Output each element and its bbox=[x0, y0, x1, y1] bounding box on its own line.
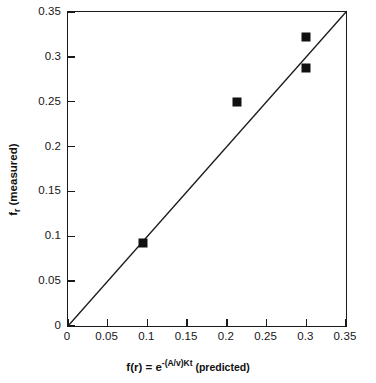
identity-reference-line bbox=[68, 12, 346, 326]
x-tick-mark bbox=[345, 319, 346, 326]
x-axis-title-tail: (predicted) bbox=[193, 361, 250, 373]
y-tick-label: 0.3 bbox=[45, 50, 61, 62]
y-tick-label: 0.25 bbox=[38, 95, 61, 107]
x-tick-mark bbox=[226, 319, 227, 326]
x-tick-label: 0.05 bbox=[95, 330, 118, 342]
y-axis-title: fr (measured) bbox=[2, 100, 26, 260]
x-axis-title: f(r) = e-(A/v)Kt (predicted) bbox=[0, 358, 376, 373]
x-tick-label: 0.1 bbox=[138, 330, 154, 342]
x-tick-label: 0 bbox=[64, 330, 71, 342]
y-tick-mark bbox=[68, 191, 75, 192]
y-tick-mark bbox=[68, 101, 75, 102]
x-axis-title-base: f(r) = e bbox=[126, 361, 161, 373]
y-axis-title-subscript: r bbox=[12, 209, 22, 212]
x-tick-label: 0.35 bbox=[334, 330, 357, 342]
x-tick-mark bbox=[266, 319, 267, 326]
x-tick-label: 0.3 bbox=[297, 330, 313, 342]
y-tick-label: 0.15 bbox=[38, 184, 61, 196]
y-tick-label: 0.2 bbox=[45, 140, 61, 152]
data-point-marker bbox=[233, 97, 242, 106]
y-tick-label: 0.05 bbox=[38, 274, 61, 286]
x-tick-mark bbox=[107, 319, 108, 326]
x-tick-label: 0.25 bbox=[254, 330, 277, 342]
y-tick-label: 0.1 bbox=[45, 229, 61, 241]
y-tick-mark bbox=[68, 280, 75, 281]
x-tick-mark bbox=[147, 319, 148, 326]
plot-area bbox=[67, 11, 347, 327]
data-point-marker bbox=[138, 238, 147, 247]
y-tick-mark bbox=[68, 146, 75, 147]
y-tick-label: 0.35 bbox=[38, 5, 61, 17]
y-tick-mark bbox=[68, 325, 75, 326]
data-point-marker bbox=[302, 33, 311, 42]
data-layer bbox=[68, 12, 346, 326]
x-tick-mark bbox=[186, 319, 187, 326]
y-tick-mark bbox=[68, 236, 75, 237]
y-tick-mark bbox=[68, 11, 75, 12]
y-tick-mark bbox=[68, 56, 75, 57]
x-tick-mark bbox=[306, 319, 307, 326]
x-tick-label: 0.2 bbox=[218, 330, 234, 342]
scatter-chart-figure: fr (measured) f(r) = e-(A/v)Kt (predicte… bbox=[0, 0, 376, 383]
y-axis-title-base: f bbox=[6, 212, 18, 216]
y-axis-title-text: fr (measured) bbox=[6, 144, 21, 216]
x-tick-label: 0.15 bbox=[175, 330, 198, 342]
y-axis-title-tail: (measured) bbox=[6, 144, 18, 209]
y-tick-label: 0 bbox=[55, 319, 62, 331]
data-point-marker bbox=[302, 63, 311, 72]
x-axis-title-exponent: -(A/v)Kt bbox=[162, 358, 193, 368]
